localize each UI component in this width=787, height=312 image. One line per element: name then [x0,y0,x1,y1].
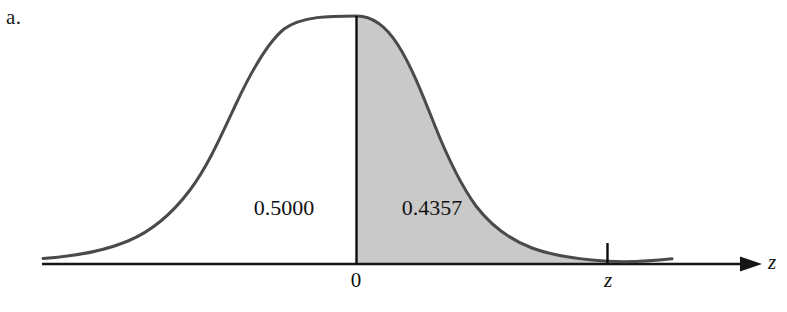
axis-arrowhead-icon [740,257,762,272]
shaded-area-region [357,16,608,263]
x-axis-name-label: z [768,252,776,273]
normal-curve-figure: a. 0.5000 0.4357 0 z z [0,0,787,312]
shaded-area-probability-label: 0.4357 [402,197,463,219]
x-axis-tick-label-z: z [604,270,612,291]
part-label: a. [6,7,22,28]
normal-distribution-plot [0,0,787,312]
left-area-probability-label: 0.5000 [254,197,315,219]
x-axis-tick-label-zero: 0 [351,270,362,291]
